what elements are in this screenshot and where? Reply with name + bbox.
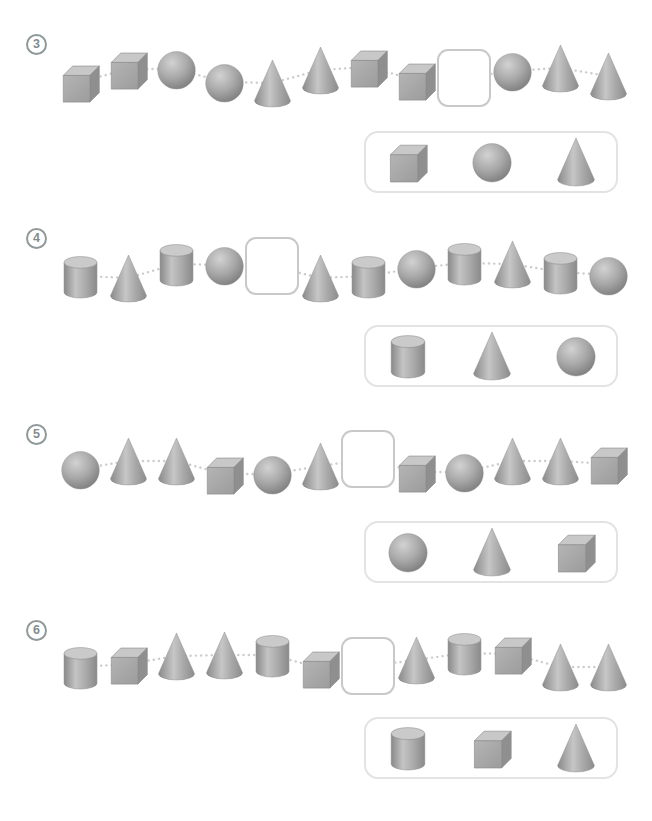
missing-shape-slot[interactable] [245,237,299,295]
cube-icon [345,40,392,95]
sequence-slot [584,34,632,118]
cone-icon [105,434,152,489]
cube-icon [552,524,600,580]
sequence-slot [296,620,344,704]
exercise-number-badge: 5 [26,424,47,445]
sequence-slot [488,620,536,704]
cone-icon [585,640,632,695]
answer-option-cone[interactable] [466,327,518,385]
sequence-slot [440,228,488,312]
blank-slot-holder [344,620,392,704]
answer-option-cone[interactable] [550,719,602,777]
cone-icon [153,629,200,684]
sequence-slot [296,228,344,312]
sequence-slot [440,424,488,508]
sequence-slot [248,34,296,118]
sequence-slot [200,424,248,508]
shape-sequence [56,34,632,118]
cylinder-icon [537,245,584,300]
cube-icon [468,720,516,776]
answer-option-sphere[interactable] [466,133,518,191]
answer-option-cone[interactable] [550,133,602,191]
cylinder-icon [441,626,488,681]
sequence-slot [536,620,584,704]
cylinder-icon [384,328,432,384]
answer-option-cube[interactable] [466,719,518,777]
sphere-icon [201,238,248,293]
sequence-slot [104,620,152,704]
sphere-icon [201,55,248,110]
cube-icon [489,627,536,682]
sequence-slot [200,34,248,118]
sequence-slot [584,620,632,704]
cube-icon [57,55,104,110]
answer-option-cube[interactable] [550,523,602,581]
blank-slot-holder [248,228,296,312]
missing-shape-slot[interactable] [341,637,395,695]
cube-icon [201,447,248,502]
exercise-number: 5 [33,428,40,441]
sequence-slot [248,424,296,508]
cone-icon [153,434,200,489]
exercise-number-badge: 4 [26,228,47,249]
answer-option-cylinder[interactable] [382,327,434,385]
sequence-slot [440,620,488,704]
sequence-slot [488,424,536,508]
cube-icon [393,53,440,108]
answer-option-sphere[interactable] [382,523,434,581]
exercise: 6 [0,620,652,782]
blank-slot-holder [440,34,488,118]
sphere-icon [468,134,516,190]
answer-option-cylinder[interactable] [382,719,434,777]
sphere-icon [585,248,632,303]
cylinder-icon [57,640,104,695]
answer-choices-box [364,521,618,583]
answer-option-cone[interactable] [466,523,518,581]
exercise: 5 [0,424,652,586]
sequence-slot [104,34,152,118]
answer-choices-box [364,325,618,387]
sphere-icon [153,42,200,97]
sequence-slot [392,620,440,704]
missing-shape-slot[interactable] [437,49,491,107]
cylinder-icon [384,720,432,776]
sphere-icon [249,447,296,502]
sequence-slot [536,228,584,312]
sequence-slot [56,34,104,118]
sequence-slot [200,228,248,312]
sequence-slot [104,424,152,508]
sequence-slot [392,228,440,312]
cone-icon [489,237,536,292]
sequence-slot [536,34,584,118]
cone-icon [105,251,152,306]
cylinder-icon [345,249,392,304]
sphere-icon [57,442,104,497]
sphere-icon [489,44,536,99]
cylinder-icon [57,249,104,304]
worksheet-page: 3 4 5 6 [0,0,652,821]
cone-icon [537,640,584,695]
sequence-slot [296,424,344,508]
sequence-slot [584,424,632,508]
sequence-slot [296,34,344,118]
sequence-slot [584,228,632,312]
sequence-slot [152,228,200,312]
cone-icon [393,633,440,688]
answer-option-sphere[interactable] [550,327,602,385]
cone-icon [537,41,584,96]
sequence-slot [248,620,296,704]
cone-icon [468,328,516,384]
sequence-slot [56,424,104,508]
exercise-number-badge: 6 [26,620,47,641]
cone-icon [585,49,632,104]
cone-icon [297,439,344,494]
sequence-slot [488,34,536,118]
missing-shape-slot[interactable] [341,430,395,488]
cone-icon [552,134,600,190]
cube-icon [105,42,152,97]
answer-option-cube[interactable] [382,133,434,191]
sequence-slot [392,34,440,118]
sequence-slot [152,424,200,508]
sequence-slot [152,34,200,118]
cone-icon [201,628,248,683]
